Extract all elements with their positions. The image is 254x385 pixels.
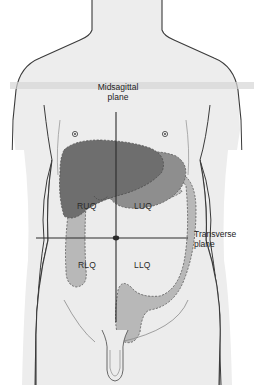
quadrant-ruq-label: RUQ (77, 201, 97, 211)
abdominal-quadrants-diagram: Midsagittal plane Transverse plane RUQ L… (0, 0, 254, 385)
umbilicus (113, 236, 119, 241)
quadrant-rlq-label: RLQ (78, 260, 96, 270)
midsagittal-label-line1: Midsagittal (92, 82, 144, 92)
midsagittal-label: Midsagittal plane (92, 82, 144, 102)
midsagittal-label-line2: plane (92, 92, 144, 102)
quadrant-luq-label: LUQ (134, 201, 152, 211)
transverse-label-line1: Transverse (194, 229, 236, 239)
quadrant-llq-label: LLQ (134, 260, 151, 270)
transverse-label-line2: plane (194, 239, 236, 249)
torso-illustration (0, 0, 254, 385)
transverse-label: Transverse plane (194, 229, 236, 249)
